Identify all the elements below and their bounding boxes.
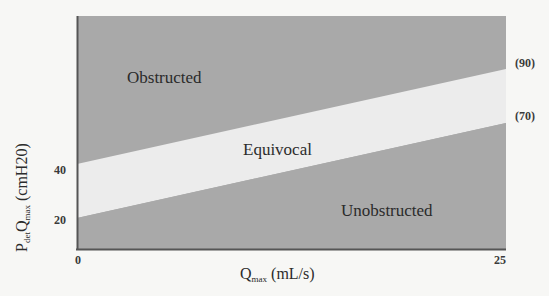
nomogram-chart: Obstructed Equivocal Unobstructed (90) (… xyxy=(0,0,549,296)
equivocal-label: Equivocal xyxy=(243,141,312,158)
upper-boundary-value-label: (90) xyxy=(515,57,535,69)
x-tick-25: 25 xyxy=(494,254,506,266)
obstructed-label: Obstructed xyxy=(127,69,202,86)
lower-boundary-value-label: (70) xyxy=(515,110,535,122)
x-tick-0: 0 xyxy=(75,254,81,266)
x-axis-label: Qmax (mL/s) xyxy=(240,266,315,284)
unobstructed-label: Unobstructed xyxy=(341,202,433,219)
y-tick-20: 20 xyxy=(54,214,66,226)
y-axis-label: PdetQmax (cmH20) xyxy=(14,143,32,252)
y-tick-40: 40 xyxy=(54,164,66,176)
